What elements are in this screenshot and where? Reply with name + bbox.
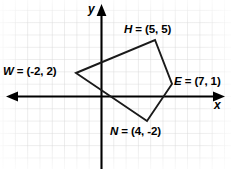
vertex-coords-e: (7, 1) [194,75,220,87]
vertex-equals-w: = [14,65,27,77]
vertex-coords-h: (5, 5) [145,23,171,35]
vertex-equals-h: = [132,23,145,35]
vertex-label-n: N = (4, -2) [110,126,161,138]
vertex-coords-n: (4, -2) [131,125,161,137]
vertex-coords-w: (-2, 2) [27,65,57,77]
x-axis-label: x [214,99,221,111]
vertex-label-e: E = (7, 1) [174,76,221,88]
vertex-equals-n: = [118,125,131,137]
vertex-label-w: W = (-2, 2) [3,66,57,78]
vertex-equals-e: = [182,75,195,87]
vertex-name-h: H [124,23,132,35]
vertex-name-e: E [174,75,182,87]
vertex-label-h: H = (5, 5) [124,24,171,36]
vertex-name-n: N [110,125,118,137]
vertex-name-w: W [3,65,14,77]
quadrilateral-outline [76,40,172,121]
coordinate-plane-figure: H = (5, 5) W = (-2, 2) E = (7, 1) N = (4… [0,0,231,169]
y-axis-label: y [88,3,95,15]
